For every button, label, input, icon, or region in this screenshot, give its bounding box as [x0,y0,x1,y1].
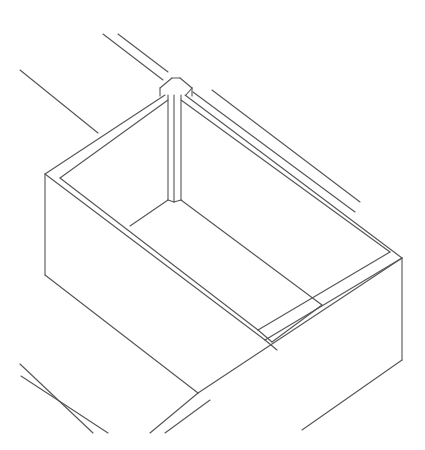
line-segment [103,34,163,80]
line-segment [174,200,181,202]
line-segment [130,200,168,226]
line-segment [258,252,390,330]
line-segment [193,92,355,212]
isometric-box-diagram [0,0,425,450]
line-segment [212,90,360,202]
line-segment [45,174,265,340]
line-segment [185,95,402,258]
line-segment [60,100,168,178]
bottom-mid-wall-lines [150,393,210,433]
divider-panel [130,200,322,342]
line-segment [186,88,192,95]
outer-walls [45,174,402,430]
line-segment [45,95,165,174]
line-segment [45,275,198,393]
line-segment [20,364,93,433]
line-segment [165,400,210,433]
line-segment [118,34,168,72]
line-segment [60,178,258,330]
line-segment [181,100,390,252]
bottom-left-wall-lines [20,364,108,433]
line-segment [302,360,402,430]
line-segment [198,258,402,393]
background-wall-lines [20,34,360,212]
line-segment [180,78,192,88]
line-segment [181,200,322,305]
line-segment [168,200,174,202]
line-segment [21,376,108,433]
inner-rim [60,100,390,330]
line-segment [20,70,98,133]
line-segment [265,258,402,340]
line-segment [272,305,322,342]
